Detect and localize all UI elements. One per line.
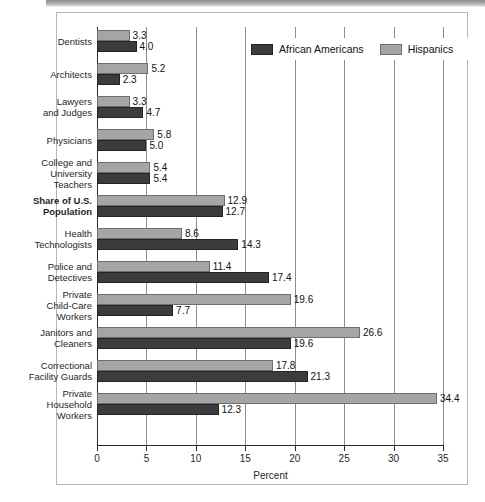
bar-value-hispanics: 8.6	[185, 228, 199, 239]
bar-hispanics	[97, 327, 360, 338]
bar-african-americans	[97, 305, 173, 316]
category-label-line: Workers	[0, 410, 92, 421]
category-label-line: and Judges	[0, 107, 92, 118]
bar-hispanics	[97, 360, 273, 371]
category-label-line: Workers	[0, 311, 92, 322]
bar-hispanics	[97, 294, 291, 305]
bar-value-hispanics: 5.8	[157, 129, 171, 140]
category-label: HealthTechnologists	[0, 228, 92, 250]
bar-value-hispanics: 3.3	[133, 96, 147, 107]
legend-swatch-hispanics	[380, 44, 402, 55]
bar-value-african-americans: 4.7	[146, 107, 160, 118]
bar-african-americans	[97, 371, 308, 382]
category-label-line: College and	[0, 157, 92, 168]
bar-value-african-americans: 14.3	[241, 239, 260, 250]
category-label-line: Lawyers	[0, 96, 92, 107]
bar-hispanics	[97, 129, 154, 140]
gridline-20	[295, 27, 296, 445]
bar-value-hispanics: 26.6	[363, 327, 382, 338]
bar-value-hispanics: 5.4	[153, 162, 167, 173]
bar-african-americans	[97, 272, 269, 283]
category-label: Janitors andCleaners	[0, 327, 92, 349]
bar-hispanics	[97, 228, 182, 239]
x-tick-label-35: 35	[428, 453, 458, 465]
category-label-line: Population	[0, 206, 92, 217]
bar-hispanics	[97, 393, 437, 404]
x-tick-10	[196, 445, 197, 451]
category-label-line: Health	[0, 228, 92, 239]
bar-value-hispanics: 17.8	[276, 360, 295, 371]
legend-label-african_americans: African Americans	[279, 43, 364, 55]
bar-african-americans	[97, 404, 219, 415]
category-label-line: Physicians	[0, 135, 92, 146]
category-label: Physicians	[0, 135, 92, 146]
category-label-line: Architects	[0, 69, 92, 80]
category-label-line: Cleaners	[0, 338, 92, 349]
bar-african-americans	[97, 107, 143, 118]
bar-value-african-americans: 12.3	[222, 404, 241, 415]
bar-value-african-americans: 7.7	[176, 305, 190, 316]
bar-value-hispanics: 5.2	[151, 63, 165, 74]
bar-african-americans	[97, 239, 238, 250]
bar-hispanics	[97, 195, 225, 206]
bar-value-hispanics: 11.4	[213, 261, 232, 272]
bar-african-americans	[97, 74, 120, 85]
bar-value-african-americans: 2.3	[123, 74, 137, 85]
bar-value-hispanics: 19.6	[294, 294, 313, 305]
category-label: PrivateChild-CareWorkers	[0, 289, 92, 322]
bar-value-hispanics: 3.3	[133, 30, 147, 41]
bar-value-african-americans: 21.3	[311, 371, 330, 382]
x-tick-25	[344, 445, 345, 451]
gridline-30	[394, 27, 395, 445]
bar-african-americans	[97, 206, 223, 217]
x-tick-30	[394, 445, 395, 451]
x-tick-label-25: 25	[329, 453, 359, 465]
bar-african-americans	[97, 338, 291, 349]
bar-hispanics	[97, 63, 148, 74]
x-tick-label-10: 10	[181, 453, 211, 465]
x-tick-label-20: 20	[280, 453, 310, 465]
category-label: Lawyersand Judges	[0, 96, 92, 118]
category-label-line: Police and	[0, 261, 92, 272]
bar-african-americans	[97, 140, 146, 151]
x-tick-35	[443, 445, 444, 451]
category-label-line: Janitors and	[0, 327, 92, 338]
x-axis-title: Percent	[97, 470, 444, 481]
category-label: CorrectionalFacility Guards	[0, 360, 92, 382]
bar-hispanics	[97, 162, 150, 173]
category-label-line: Share of U.S.	[0, 195, 92, 206]
category-label-line: Household	[0, 399, 92, 410]
category-label: College andUniversityTeachers	[0, 157, 92, 190]
bar-value-african-americans: 19.6	[294, 338, 313, 349]
category-label: Share of U.S.Population	[0, 195, 92, 217]
legend-label-hispanics: Hispanics	[408, 43, 454, 55]
gridline-25	[344, 27, 345, 445]
x-tick-5	[146, 445, 147, 451]
legend-swatch-african_americans	[251, 44, 273, 55]
x-tick-label-0: 0	[82, 453, 112, 465]
bar-hispanics	[97, 261, 210, 272]
bar-value-hispanics: 34.4	[440, 393, 459, 404]
x-tick-15	[245, 445, 246, 451]
category-label: PrivateHouseholdWorkers	[0, 388, 92, 421]
category-label-line: Child-Care	[0, 300, 92, 311]
x-tick-label-30: 30	[379, 453, 409, 465]
category-label-line: Private	[0, 289, 92, 300]
category-label-line: Technologists	[0, 239, 92, 250]
x-axis-line	[97, 445, 444, 446]
category-label-line: Dentists	[0, 36, 92, 47]
bar-african-americans	[97, 41, 137, 52]
bar-value-hispanics: 12.9	[228, 195, 247, 206]
gridline-35	[443, 27, 444, 445]
category-label-line: Private	[0, 388, 92, 399]
bar-african-americans	[97, 173, 150, 184]
chart-legend: African AmericansHispanics	[247, 38, 473, 60]
bar-value-african-americans: 12.7	[226, 206, 245, 217]
x-tick-label-15: 15	[230, 453, 260, 465]
category-label-line: Facility Guards	[0, 371, 92, 382]
x-tick-0	[97, 445, 98, 451]
gridline-15	[245, 27, 246, 445]
bar-value-african-americans: 5.4	[153, 173, 167, 184]
category-label-line: Detectives	[0, 272, 92, 283]
category-label: Dentists	[0, 36, 92, 47]
